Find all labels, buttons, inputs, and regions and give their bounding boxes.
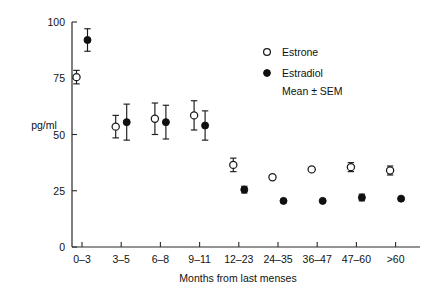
- y-axis-title: pg/ml: [31, 119, 57, 131]
- x-axis: 0–33–56–89–1112–2324–3536–4747–60>60: [72, 242, 420, 265]
- x-axis-title: Months from last menses: [179, 272, 296, 284]
- open-circle-marker: [269, 174, 276, 181]
- data-point: [230, 158, 237, 172]
- data-point: [241, 186, 248, 193]
- filled-circle-marker: [123, 119, 130, 126]
- legend-note-mean-sem: Mean ± SEM: [282, 85, 343, 97]
- x-tick-label: 9–11: [188, 253, 211, 265]
- data-point: [398, 195, 405, 202]
- data-point: [269, 174, 276, 181]
- open-circle-marker: [73, 74, 80, 81]
- x-tick-label: >60: [387, 253, 405, 265]
- x-tick-label: 6–8: [152, 253, 170, 265]
- legend-entry-estrone: Estrone: [264, 46, 319, 58]
- data-point: [202, 111, 209, 140]
- x-tick-label: 12–23: [224, 253, 253, 265]
- x-axis-ticks: 0–33–56–89–1112–2324–3536–4747–60>60: [73, 242, 404, 265]
- x-tick-label: 47–60: [342, 253, 371, 265]
- data-point: [358, 194, 365, 201]
- x-tick-label: 0–3: [73, 253, 91, 265]
- y-tick-label: 25: [53, 185, 65, 197]
- filled-circle-marker: [241, 186, 248, 193]
- data-point: [191, 101, 198, 130]
- open-circle-marker: [347, 164, 354, 171]
- legend-entry-estradiol: Estradiol: [264, 67, 323, 79]
- data-point: [319, 197, 326, 204]
- data-point: [151, 103, 158, 135]
- data-point: [387, 166, 394, 175]
- filled-circle-marker: [202, 122, 209, 129]
- filled-circle-marker: [84, 37, 91, 44]
- open-circle-marker: [151, 115, 158, 122]
- data-point: [84, 29, 91, 52]
- data-point: [162, 105, 169, 139]
- data-point: [123, 104, 130, 140]
- series-estradiol: [84, 29, 405, 205]
- chart-figure: 0255075100 0–33–56–89–1112–2324–3536–474…: [0, 0, 435, 294]
- open-circle-marker: [387, 167, 394, 174]
- data-point: [280, 197, 287, 204]
- y-tick-label: 0: [59, 241, 65, 253]
- x-tick-label: 24–35: [263, 253, 292, 265]
- x-tick-label: 36–47: [303, 253, 332, 265]
- legend-label-estrone: Estrone: [282, 46, 318, 58]
- open-circle-marker: [191, 112, 198, 119]
- y-tick-label: 100: [47, 16, 65, 28]
- filled-circle-marker: [398, 195, 405, 202]
- y-tick-label: 75: [53, 72, 65, 84]
- filled-circle-marker: [319, 197, 326, 204]
- series-estrone: [73, 70, 394, 180]
- data-point: [347, 163, 354, 172]
- data-points-layer: [73, 29, 405, 205]
- x-tick-label: 3–5: [112, 253, 130, 265]
- open-circle-marker: [112, 123, 119, 130]
- chart-legend: Estrone Estradiol Mean ± SEM: [264, 46, 343, 97]
- filled-circle-marker: [162, 119, 169, 126]
- data-point: [308, 166, 315, 173]
- data-point: [73, 70, 80, 84]
- filled-circle-icon: [264, 70, 271, 77]
- estrogen-levels-scatter-plot: 0255075100 0–33–56–89–1112–2324–3536–474…: [0, 0, 435, 294]
- filled-circle-marker: [280, 197, 287, 204]
- y-axis: 0255075100: [47, 16, 77, 253]
- data-point: [112, 115, 119, 138]
- filled-circle-marker: [358, 194, 365, 201]
- open-circle-marker: [230, 161, 237, 168]
- legend-label-estradiol: Estradiol: [282, 67, 323, 79]
- open-circle-icon: [264, 49, 271, 56]
- open-circle-marker: [308, 166, 315, 173]
